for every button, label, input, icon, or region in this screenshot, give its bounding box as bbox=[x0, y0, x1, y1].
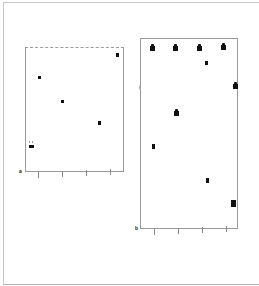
panel-b-point bbox=[231, 200, 236, 207]
panel-b-x-tick bbox=[154, 229, 155, 235]
panel-a-x-tick bbox=[62, 171, 63, 177]
panel-b-point bbox=[221, 43, 226, 50]
panel-b-frame bbox=[140, 38, 238, 229]
panel-a-x-tick bbox=[110, 169, 111, 175]
panel-b-point bbox=[205, 61, 208, 65]
panel-b-point bbox=[233, 82, 238, 89]
panel-a-point-annotation bbox=[29, 141, 30, 143]
panel-b-point bbox=[206, 178, 209, 183]
panel-a-x-tick bbox=[38, 172, 39, 178]
panel-a-point bbox=[116, 53, 119, 57]
panel-b-point bbox=[152, 144, 155, 149]
panel-b-x-tick bbox=[178, 228, 179, 234]
panel-a-point-annotation bbox=[32, 141, 33, 143]
panel-b-point bbox=[197, 44, 202, 51]
panel-a-frame bbox=[25, 47, 124, 172]
panel-a-label: a bbox=[19, 169, 22, 174]
panel-b-point bbox=[150, 44, 155, 51]
panel-b-x-tick bbox=[202, 227, 203, 233]
panel-a-point bbox=[61, 100, 64, 103]
panel-a-point bbox=[38, 76, 41, 79]
panel-a-point bbox=[29, 145, 34, 148]
panel-b-point bbox=[173, 44, 178, 51]
panel-a-x-tick bbox=[86, 170, 87, 176]
panel-b-x-tick bbox=[226, 226, 227, 232]
panel-b-axis-mark bbox=[139, 85, 142, 90]
panel-b-label: b bbox=[135, 226, 138, 231]
panel-b-point bbox=[174, 109, 179, 116]
panel-a-point bbox=[98, 121, 101, 125]
